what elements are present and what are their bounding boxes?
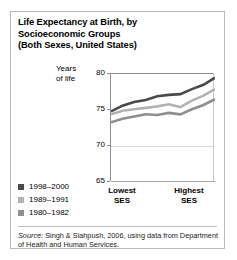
chart-legend: 1998–20001989–19911980–1982 — [18, 180, 102, 219]
legend-swatch-icon — [18, 184, 24, 190]
legend-item-1: 1989–1991 — [18, 193, 102, 206]
legend-swatch-icon — [18, 197, 24, 203]
figure-panel: Life Expectancy at Birth, by Socioeconom… — [10, 11, 225, 249]
source-body: Singh & Siahpush, 2006, using data from … — [18, 231, 218, 249]
x-cat-highest-line-2: SES — [162, 196, 216, 206]
chart-title: Life Expectancy at Birth, by Socioeconom… — [18, 17, 218, 52]
chart-title-line-1: Life Expectancy at Birth, by — [18, 17, 218, 29]
series-line-1989-1991 — [111, 89, 215, 114]
plot-frame — [110, 73, 214, 181]
legend-item-2: 1980–1982 — [18, 206, 102, 219]
source-note: Source: Singh & Siahpush, 2006, using da… — [18, 231, 219, 249]
legend-label: 1989–1991 — [29, 196, 69, 204]
x-axis-category-lowest: Lowest SES — [95, 186, 149, 205]
y-tick-label-75: 75 — [83, 105, 105, 113]
x-cat-lowest-line-1: Lowest — [108, 186, 136, 195]
y-tick-mark-65 — [107, 181, 110, 182]
chart-title-line-2: Socioeconomic Groups — [18, 29, 218, 41]
x-axis-category-highest: Highest SES — [162, 186, 216, 205]
y-tick-label-70: 70 — [83, 141, 105, 149]
legend-item-0: 1998–2000 — [18, 180, 102, 193]
legend-swatch-icon — [18, 210, 24, 216]
plot-area: Years of life 65707580 Lowest SES Highes… — [11, 62, 226, 187]
y-tick-label-80: 80 — [83, 69, 105, 77]
x-cat-highest-line-1: Highest — [174, 186, 203, 195]
legend-label: 1980–1982 — [29, 209, 69, 217]
source-divider — [18, 226, 217, 227]
series-lines — [111, 74, 215, 182]
x-cat-lowest-line-2: SES — [95, 196, 149, 206]
source-label: Source: — [18, 231, 43, 240]
legend-label: 1998–2000 — [29, 183, 69, 191]
chart-title-line-3: (Both Sexes, United States) — [18, 40, 218, 52]
